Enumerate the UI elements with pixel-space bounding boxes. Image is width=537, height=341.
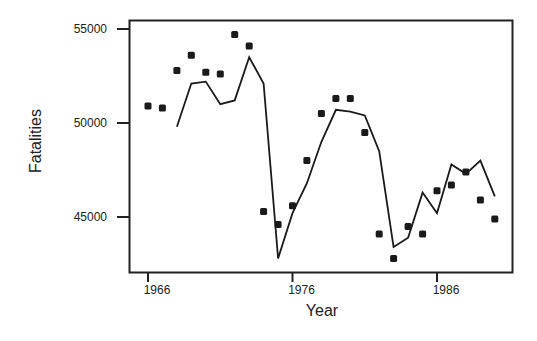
y-axis-ticks: 450005000055000 bbox=[74, 22, 129, 224]
data-point bbox=[318, 110, 325, 117]
y-tick-label: 55000 bbox=[74, 22, 108, 36]
data-point bbox=[188, 52, 195, 59]
y-axis-label: Fatalities bbox=[27, 109, 44, 173]
data-point bbox=[347, 95, 354, 102]
data-point bbox=[390, 255, 397, 262]
data-point bbox=[289, 202, 296, 209]
data-point bbox=[434, 187, 441, 194]
data-point bbox=[159, 105, 166, 112]
data-point bbox=[477, 197, 484, 204]
data-point bbox=[231, 31, 238, 38]
data-point bbox=[145, 103, 152, 110]
data-point bbox=[419, 230, 426, 237]
data-point bbox=[173, 67, 180, 74]
data-point bbox=[448, 182, 455, 189]
data-point bbox=[405, 223, 412, 230]
x-axis-label: Year bbox=[306, 302, 339, 319]
y-tick-label: 45000 bbox=[74, 210, 108, 224]
smoothed-line bbox=[177, 57, 495, 258]
data-point bbox=[491, 215, 498, 222]
data-point bbox=[361, 129, 368, 136]
x-tick-label: 1966 bbox=[144, 283, 171, 297]
data-point bbox=[202, 69, 209, 76]
data-point bbox=[376, 230, 383, 237]
chart: 450005000055000 196619761986 Year Fatali… bbox=[0, 0, 537, 341]
x-axis-ticks: 196619761986 bbox=[144, 272, 460, 297]
data-point bbox=[303, 157, 310, 164]
data-point bbox=[260, 208, 267, 215]
data-points bbox=[145, 31, 499, 262]
data-point bbox=[275, 221, 282, 228]
y-tick-label: 50000 bbox=[74, 116, 108, 130]
data-point bbox=[462, 168, 469, 175]
data-point bbox=[217, 71, 224, 78]
x-tick-label: 1976 bbox=[288, 283, 315, 297]
x-tick-label: 1986 bbox=[433, 283, 460, 297]
plot-frame bbox=[130, 21, 513, 273]
data-point bbox=[332, 95, 339, 102]
data-point bbox=[246, 42, 253, 49]
